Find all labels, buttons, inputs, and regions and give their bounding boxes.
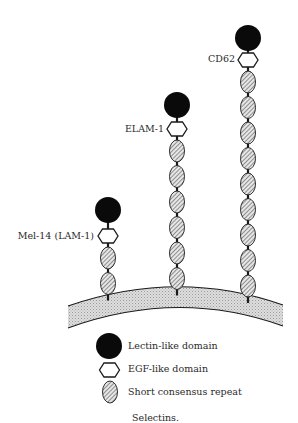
selectins-diagram: Mel-14 (LAM-1) ELAM-1 CD62 Lectin-like d… bbox=[0, 0, 298, 423]
mel14-egf-domain bbox=[98, 229, 118, 243]
label-mel14: Mel-14 (LAM-1) bbox=[18, 230, 94, 241]
cd62-scr-repeat bbox=[241, 97, 256, 119]
cd62-scr-repeat bbox=[241, 148, 256, 170]
cd62-scr-repeat bbox=[241, 275, 256, 297]
label-cd62: CD62 bbox=[208, 53, 235, 64]
elam1-scr-repeat bbox=[170, 140, 185, 162]
cd62-scr-repeat bbox=[241, 224, 256, 246]
elam1-scr-repeat bbox=[170, 242, 185, 264]
legend-scr-label: Short consensus repeat bbox=[128, 386, 242, 397]
mel14-scr-repeat bbox=[101, 273, 116, 295]
elam1-scr-repeat bbox=[170, 191, 185, 213]
legend-lectin-icon bbox=[96, 333, 122, 359]
legend-lectin-label: Lectin-like domain bbox=[128, 340, 218, 351]
label-elam1: ELAM-1 bbox=[125, 123, 164, 134]
cd62-lectin-domain bbox=[235, 25, 261, 51]
cd62-scr-repeat bbox=[241, 199, 256, 221]
elam1-scr-repeat bbox=[170, 268, 185, 290]
cd62-scr-repeat bbox=[241, 250, 256, 272]
mel14-scr-repeat bbox=[101, 247, 116, 269]
cd62-scr-repeat bbox=[241, 173, 256, 195]
cd62-scr-repeat bbox=[241, 71, 256, 93]
diagram-canvas: Mel-14 (LAM-1) ELAM-1 CD62 Lectin-like d… bbox=[0, 0, 298, 423]
mel14-lectin-domain bbox=[95, 197, 121, 223]
cd62-scr-repeat bbox=[241, 122, 256, 144]
legend-egf-icon bbox=[100, 363, 120, 377]
elam1-scr-repeat bbox=[170, 166, 185, 188]
legend: Lectin-like domain EGF-like domain Short… bbox=[96, 333, 242, 403]
elam1-egf-domain bbox=[167, 122, 187, 136]
legend-scr-icon bbox=[103, 381, 118, 403]
elam1-lectin-domain bbox=[164, 92, 190, 118]
elam1-scr-repeat bbox=[170, 217, 185, 239]
molecules-group bbox=[95, 25, 261, 303]
legend-egf-label: EGF-like domain bbox=[128, 363, 208, 374]
figure-caption: Selectins. bbox=[132, 412, 179, 423]
cd62-egf-domain bbox=[238, 53, 258, 67]
